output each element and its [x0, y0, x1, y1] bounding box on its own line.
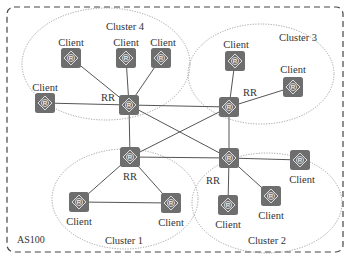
router-icon: R: [219, 148, 239, 168]
router-icon: R: [225, 51, 245, 71]
link-c1_rr-c2_rr: [130, 157, 229, 158]
router-c3_client1[interactable]: R: [225, 51, 245, 71]
router-icon: R: [218, 195, 238, 215]
router-icon: R: [290, 150, 310, 170]
router-icon: R: [261, 186, 281, 206]
router-c4_client3[interactable]: R: [151, 48, 171, 68]
svg-text:R: R: [169, 200, 174, 206]
svg-text:R: R: [227, 104, 232, 110]
router-icon: R: [219, 97, 239, 117]
svg-text:R: R: [291, 84, 296, 90]
rr-label: RR: [243, 87, 257, 98]
router-c2_rr[interactable]: R: [219, 148, 239, 168]
router-icon: R: [120, 147, 140, 167]
svg-text:R: R: [159, 55, 164, 61]
router-c4_client4[interactable]: R: [35, 93, 55, 113]
as-label: AS100: [17, 234, 45, 245]
svg-text:R: R: [226, 202, 231, 208]
rr-label: RR: [206, 175, 220, 186]
cluster-label-cluster2: Cluster 2: [248, 235, 286, 246]
svg-text:R: R: [124, 55, 129, 61]
client-label: Client: [58, 37, 84, 48]
client-label: Client: [215, 219, 241, 230]
svg-text:R: R: [77, 199, 82, 205]
cluster-label-cluster4: Cluster 4: [106, 21, 145, 32]
client-label: Client: [32, 82, 58, 93]
router-c4_client2[interactable]: R: [116, 48, 136, 68]
client-label: Client: [113, 37, 139, 48]
client-label: Client: [158, 217, 184, 228]
router-icon: R: [61, 48, 81, 68]
router-icon: R: [119, 95, 139, 115]
router-c1_client2[interactable]: R: [161, 193, 181, 213]
svg-text:R: R: [128, 154, 133, 160]
router-c2_client2[interactable]: R: [261, 186, 281, 206]
svg-text:R: R: [127, 102, 132, 108]
link-c1_client1-c1_client2: [79, 202, 171, 203]
router-c4_rr[interactable]: R: [119, 95, 139, 115]
client-label: Client: [66, 216, 92, 227]
router-icon: R: [69, 192, 89, 212]
routers-layer: RRRRRRRRRRRRRRR: [35, 48, 310, 215]
link-c3_rr-c1_rr: [130, 107, 229, 157]
router-c3_rr[interactable]: R: [219, 97, 239, 117]
client-label: Client: [150, 37, 176, 48]
router-c2_client3[interactable]: R: [290, 150, 310, 170]
link-c4_rr-c4_client4: [45, 103, 129, 105]
router-c4_client1[interactable]: R: [61, 48, 81, 68]
router-icon: R: [151, 48, 171, 68]
client-label: Client: [258, 210, 284, 221]
rr-label: RR: [123, 171, 137, 182]
svg-text:R: R: [69, 55, 74, 61]
link-c2_rr-c2_client3: [229, 158, 300, 160]
client-label: Client: [223, 39, 249, 50]
svg-text:R: R: [298, 157, 303, 163]
cluster-label-cluster1: Cluster 1: [105, 235, 143, 246]
router-icon: R: [161, 193, 181, 213]
router-icon: R: [116, 48, 136, 68]
router-c1_rr[interactable]: R: [120, 147, 140, 167]
client-label: Client: [289, 174, 315, 185]
rr-label: RR: [101, 92, 115, 103]
svg-text:R: R: [43, 100, 48, 106]
svg-text:R: R: [233, 58, 238, 64]
link-c4_rr-c3_rr: [129, 105, 229, 107]
cluster-label-cluster3: Cluster 3: [279, 32, 317, 43]
links-layer: [45, 58, 300, 205]
client-label: Client: [280, 64, 306, 75]
router-c1_client1[interactable]: R: [69, 192, 89, 212]
bgp-route-reflector-diagram: AS100 RRRRRRRRRRRRRRR Cluster 4Cluster 3…: [0, 0, 349, 262]
router-c3_client2[interactable]: R: [283, 77, 303, 97]
router-icon: R: [35, 93, 55, 113]
svg-text:R: R: [227, 155, 232, 161]
router-c2_client1[interactable]: R: [218, 195, 238, 215]
router-icon: R: [283, 77, 303, 97]
svg-text:R: R: [269, 193, 274, 199]
